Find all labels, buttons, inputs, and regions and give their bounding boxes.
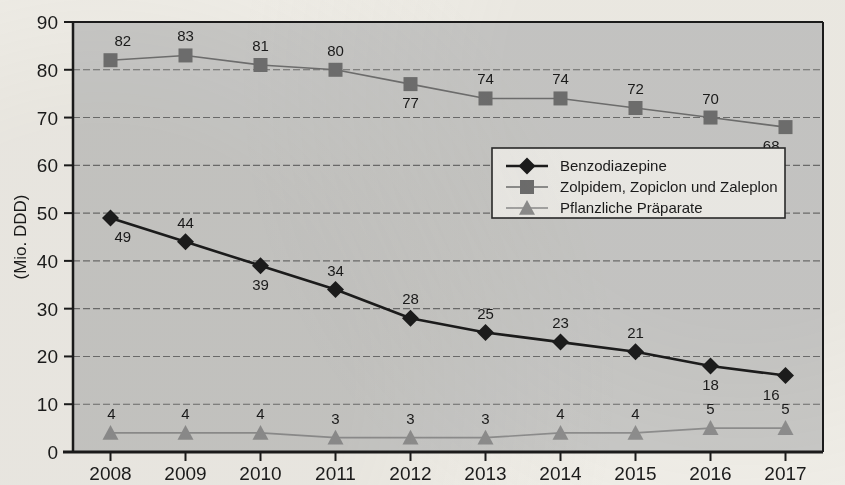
data-point-label: 72	[627, 80, 644, 97]
y-axis-tick-label: 60	[37, 155, 58, 176]
data-point-label: 81	[252, 37, 269, 54]
data-point-label: 3	[406, 410, 414, 427]
x-axis-tick-label: 2008	[89, 463, 131, 484]
data-point-label: 49	[115, 228, 132, 245]
data-point-label: 4	[631, 405, 639, 422]
data-point-label: 82	[115, 32, 132, 49]
y-axis-tick-label: 10	[37, 394, 58, 415]
legend-label-2: Zolpidem, Zopiclon und Zaleplon	[560, 178, 778, 195]
data-point-label: 39	[252, 276, 269, 293]
y-axis-tick-label: 70	[37, 108, 58, 129]
data-point-label: 21	[627, 324, 644, 341]
data-point-label: 44	[177, 214, 194, 231]
y-axis-tick-label: 50	[37, 203, 58, 224]
data-point-label: 4	[256, 405, 264, 422]
data-point-square	[520, 180, 534, 194]
data-point-square	[329, 63, 343, 77]
data-point-label: 74	[477, 70, 494, 87]
data-point-label: 4	[181, 405, 189, 422]
x-axis-tick-label: 2017	[764, 463, 806, 484]
x-axis-tick-label: 2012	[389, 463, 431, 484]
data-point-label: 5	[781, 400, 789, 417]
y-axis-tick-label: 20	[37, 346, 58, 367]
y-axis-tick-label: 0	[47, 442, 58, 463]
y-axis-title: (Mio. DDD)	[11, 195, 30, 280]
data-point-label: 3	[331, 410, 339, 427]
data-point-label: 4	[107, 405, 115, 422]
data-point-square	[779, 120, 793, 134]
y-axis-tick-label: 40	[37, 251, 58, 272]
x-axis-tick-label: 2015	[614, 463, 656, 484]
legend-label-1: Benzodiazepine	[560, 157, 667, 174]
data-point-label: 77	[402, 94, 419, 111]
data-point-square	[479, 91, 493, 105]
x-axis-tick-label: 2009	[164, 463, 206, 484]
data-point-label: 70	[702, 90, 719, 107]
data-point-square	[704, 111, 718, 125]
data-point-label: 5	[706, 400, 714, 417]
x-axis-tick-label: 2013	[464, 463, 506, 484]
data-point-label: 16	[763, 386, 780, 403]
x-axis-tick-label: 2011	[315, 463, 356, 484]
y-axis-tick-label: 30	[37, 299, 58, 320]
y-axis-tick-label: 90	[37, 12, 58, 33]
x-axis-tick-label: 2014	[539, 463, 582, 484]
line-chart: 0102030405060708090(Mio. DDD)20082009201…	[0, 0, 845, 485]
data-point-square	[254, 58, 268, 72]
legend-label-3: Pflanzliche Präparate	[560, 199, 703, 216]
data-point-label: 18	[702, 376, 719, 393]
data-point-square	[179, 48, 193, 62]
data-point-label: 28	[402, 290, 419, 307]
data-point-label: 4	[556, 405, 564, 422]
data-point-square	[104, 53, 118, 67]
data-point-label: 80	[327, 42, 344, 59]
x-axis-tick-label: 2016	[689, 463, 731, 484]
data-point-square	[554, 91, 568, 105]
x-axis-tick-label: 2010	[239, 463, 281, 484]
data-point-square	[404, 77, 418, 91]
chart-container: 0102030405060708090(Mio. DDD)20082009201…	[0, 0, 845, 485]
data-point-label: 74	[552, 70, 569, 87]
data-point-label: 3	[481, 410, 489, 427]
data-point-label: 23	[552, 314, 569, 331]
data-point-label: 25	[477, 305, 494, 322]
y-axis-tick-label: 80	[37, 60, 58, 81]
data-point-square	[629, 101, 643, 115]
data-point-label: 83	[177, 27, 194, 44]
data-point-label: 34	[327, 262, 344, 279]
